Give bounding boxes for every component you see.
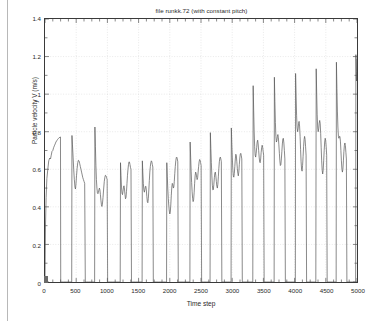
x-tick-label: 2000 [163,287,177,294]
origin-marker [44,276,48,283]
x-tick-label: 1000 [100,287,114,294]
y-tick-label: 1.2 [32,52,41,59]
y-tick-label: 0.6 [32,166,41,173]
y-tick-label: 1 [38,90,41,97]
y-tick-label: 0.4 [32,204,41,211]
x-tick-label: 4500 [320,287,334,294]
x-tick-label: 0 [42,287,45,294]
x-tick-label: 4000 [288,287,302,294]
x-tick-label: 3000 [226,287,240,294]
x-tick-label: 5000 [351,287,365,294]
matlab-figure: file runkk.72 (with constant pitch) Part… [0,0,379,321]
x-tick-label: 500 [70,287,80,294]
y-tick-label: 0 [38,280,41,287]
x-axis-title: Time step [44,300,358,307]
x-tick-label: 2500 [194,287,208,294]
x-tick-label: 3500 [257,287,271,294]
x-axis-tick-labels: 0500100015002000250030003500400045005000 [44,287,358,297]
x-tick-label: 1500 [131,287,145,294]
chart-title: file runkk.72 (with constant pitch) [44,7,359,14]
screenshot-root: file runkk.72 (with constant pitch) Part… [0,0,379,321]
y-tick-label: 0.2 [32,242,41,249]
y-tick-label: 1.4 [32,15,41,22]
plot-area [44,18,358,283]
y-tick-label: 0.8 [32,128,41,135]
data-series-line [45,19,357,282]
y-axis-tick-labels: 00.20.40.60.811.21.4 [18,18,41,283]
